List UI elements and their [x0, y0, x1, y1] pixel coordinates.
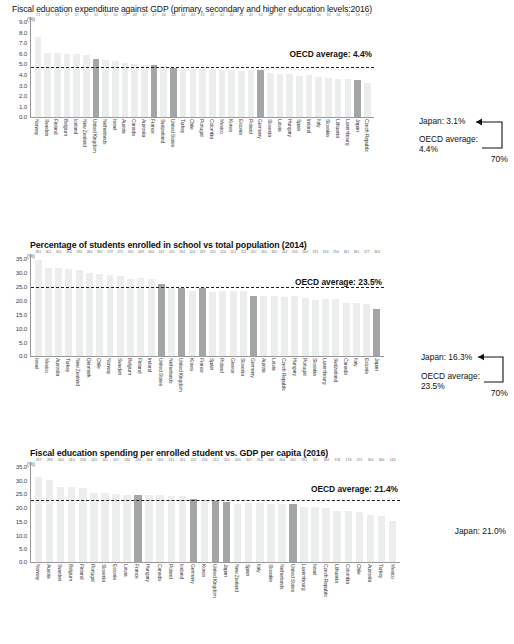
bar[interactable]: 20.0	[302, 298, 309, 356]
bar[interactable]: 4.9	[122, 63, 129, 117]
bar-slot[interactable]: 19.1	[310, 254, 320, 356]
bar[interactable]: 16.3	[373, 309, 380, 357]
bar[interactable]: 23.6	[123, 495, 131, 562]
bar[interactable]: 3.4	[335, 79, 342, 117]
bar[interactable]: 24.7	[158, 284, 165, 356]
bar[interactable]: 3.1	[364, 83, 371, 117]
bar[interactable]: 23.1	[179, 496, 187, 562]
bar[interactable]: 19.4	[332, 299, 339, 356]
bar-slot[interactable]: 20.5	[259, 254, 269, 356]
bar[interactable]: 21.2	[212, 501, 220, 562]
bar-slot[interactable]: 26.5	[125, 254, 135, 356]
bar-slot[interactable]: 18.1	[351, 254, 361, 356]
bar[interactable]: 30.1	[55, 268, 62, 356]
bar-slot[interactable]: 26.9	[136, 254, 146, 356]
bar-slot[interactable]: 19.2	[299, 462, 310, 562]
bar-slot[interactable]: 27.5	[115, 254, 125, 356]
bar[interactable]: 4.2	[219, 70, 226, 117]
bar-slot[interactable]: 27.9	[105, 254, 115, 356]
bar-slot[interactable]: 23.6	[122, 462, 133, 562]
bar-slot[interactable]: 26.3	[66, 462, 77, 562]
bar-slot[interactable]: 28.2	[95, 254, 105, 356]
bar[interactable]: 29.7	[35, 477, 43, 562]
bar[interactable]: 4.8	[131, 64, 138, 117]
bar-slot[interactable]: 17.5	[354, 462, 365, 562]
bar-slot[interactable]: 22.3	[228, 254, 238, 356]
bar[interactable]: 14.3	[389, 521, 397, 562]
bar-slot[interactable]: 23.1	[166, 462, 177, 562]
bar[interactable]: 3.8	[306, 75, 313, 117]
bar-slot[interactable]: 19.4	[331, 254, 341, 356]
bar[interactable]: 20.2	[289, 504, 297, 562]
bar-slot[interactable]: 14.3	[387, 462, 398, 562]
bar[interactable]: 20.5	[256, 503, 264, 562]
bar[interactable]: 26.3	[68, 487, 76, 562]
bar[interactable]: 4.3	[209, 69, 216, 117]
bar[interactable]: 26.5	[127, 279, 134, 356]
bar[interactable]: 4.3	[190, 69, 197, 117]
bar[interactable]: 3.9	[286, 74, 293, 117]
bar-slot[interactable]: 19.4	[320, 254, 330, 356]
bar-slot[interactable]: 28.8	[44, 462, 55, 562]
bar-slot[interactable]: 24.7	[156, 254, 166, 356]
bar-slot[interactable]: 20.3	[232, 462, 243, 562]
bar[interactable]: 23.4	[145, 495, 153, 562]
bar[interactable]: 5.8	[54, 53, 61, 117]
bar[interactable]: 4.2	[228, 70, 235, 117]
bar-slot[interactable]: 25.8	[77, 462, 88, 562]
bar[interactable]: 24.1	[101, 493, 109, 562]
bar[interactable]: 24.3	[90, 493, 98, 562]
bar[interactable]: 19.4	[322, 299, 329, 356]
bar-slot[interactable]: 20.2	[287, 462, 298, 562]
bar-slot[interactable]: 19.2	[310, 462, 321, 562]
bar-slot[interactable]: 21.0	[221, 462, 232, 562]
bar[interactable]: 4.2	[248, 70, 255, 117]
bar[interactable]: 4.1	[238, 71, 245, 117]
bar[interactable]: 18.1	[343, 303, 350, 356]
bar[interactable]: 22.4	[189, 291, 196, 356]
bar-slot[interactable]: 20.5	[254, 462, 265, 562]
bar[interactable]: 26.4	[148, 279, 155, 356]
bar-slot[interactable]: 22.4	[218, 254, 228, 356]
bar[interactable]: 29.5	[76, 270, 83, 356]
bar-slot[interactable]: 23.1	[177, 462, 188, 562]
bar[interactable]: 5.8	[44, 53, 51, 117]
bar-slot[interactable]: 23.3	[155, 462, 166, 562]
bar[interactable]: 20.5	[291, 296, 298, 356]
bar[interactable]: 17.8	[333, 511, 341, 562]
bar-slot[interactable]: 20.0	[300, 254, 310, 356]
bar[interactable]: 4.4	[170, 68, 177, 117]
bar[interactable]: 20.4	[281, 297, 288, 356]
bar-slot[interactable]: 16.4	[365, 462, 376, 562]
bar-slot[interactable]: 29.5	[74, 254, 84, 356]
bar[interactable]: 30.1	[45, 268, 52, 356]
bar[interactable]: 23.5	[168, 288, 175, 356]
bar-slot[interactable]: 23.4	[144, 462, 155, 562]
bar[interactable]: 20.4	[267, 504, 275, 562]
bar-slot[interactable]: 20.4	[276, 462, 287, 562]
bar-slot[interactable]: 20.5	[290, 254, 300, 356]
bar[interactable]: 4.2	[257, 70, 264, 117]
bar-slot[interactable]: 20.4	[279, 254, 289, 356]
bar-slot[interactable]: 22.0	[208, 254, 218, 356]
bar-slot[interactable]: 20.7	[249, 254, 259, 356]
bar[interactable]: 3.6	[315, 77, 322, 117]
bar[interactable]: 3.7	[296, 76, 303, 117]
bar[interactable]: 22.4	[219, 291, 226, 356]
bar[interactable]: 23.7	[112, 494, 120, 562]
bar[interactable]: 3.9	[277, 74, 284, 117]
bar[interactable]: 7.2	[35, 37, 42, 117]
bar[interactable]: 20.4	[278, 504, 286, 562]
bar-slot[interactable]: 28.4	[84, 254, 94, 356]
bar-slot[interactable]: 17.8	[332, 462, 343, 562]
bar[interactable]: 23.1	[168, 496, 176, 562]
bar-slot[interactable]: 20.5	[269, 254, 279, 356]
bar-slot[interactable]: 30.0	[64, 254, 74, 356]
bar[interactable]: 4.3	[199, 69, 206, 117]
bar[interactable]: 21.9	[190, 499, 198, 562]
bar[interactable]: 20.5	[260, 296, 267, 356]
bar-slot[interactable]: 16.3	[372, 254, 382, 356]
bar[interactable]: 17.5	[356, 512, 364, 562]
bar[interactable]: 30.0	[65, 269, 72, 356]
bar[interactable]: 20.3	[234, 504, 242, 562]
